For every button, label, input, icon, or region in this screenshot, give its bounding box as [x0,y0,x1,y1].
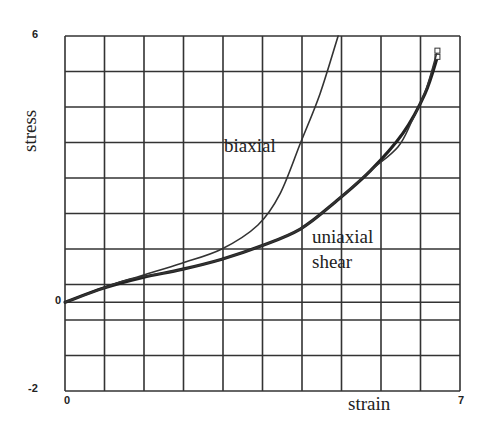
x-tick-0: 0 [64,394,70,406]
y-tick-neg2: -2 [28,382,38,394]
y-tick-0: 0 [55,294,61,306]
curve-biaxial [65,36,338,302]
grid [65,36,460,391]
y-axis-title: stress [19,110,40,152]
y-tick-6: 6 [32,28,38,40]
curves [65,36,440,302]
stress-strain-chart: 6 0 -2 0 7 stress strain biaxial uniaxia… [0,0,478,426]
label-uniaxial: uniaxial [312,226,373,247]
label-shear: shear [312,251,353,272]
square-marker [435,48,440,53]
x-axis-title: strain [348,393,391,414]
label-biaxial: biaxial [224,135,276,156]
x-tick-7: 7 [458,394,464,406]
